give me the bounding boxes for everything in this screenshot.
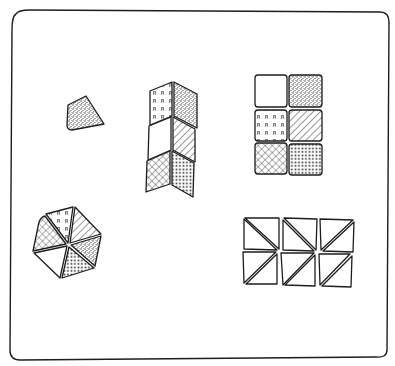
kite-tile [67, 96, 104, 130]
chevron-stack [146, 82, 197, 197]
triangle-grid [243, 218, 354, 287]
hexagon-tiles [33, 207, 101, 278]
square-grid [255, 75, 322, 175]
illustration-canvas: R [0, 0, 395, 366]
frame-border [10, 10, 389, 360]
